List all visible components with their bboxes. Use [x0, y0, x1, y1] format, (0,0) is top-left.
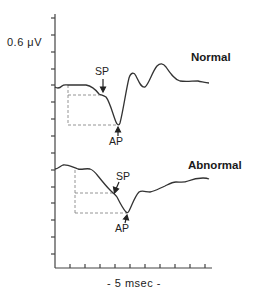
abnormal-sp-label: SP: [116, 171, 130, 182]
time-scale-label: - 5 msec -: [107, 278, 161, 289]
normal-waveform: [55, 64, 209, 125]
evoked-potential-figure: 0.6 μV Normal SP AP Abnormal SP AP - 5 m…: [0, 0, 256, 289]
abnormal-ap-label: AP: [115, 223, 129, 234]
abnormal-sp-arrow: [114, 182, 120, 193]
abnormal-waveform: [55, 165, 209, 213]
abnormal-trace-title: Abnormal: [188, 160, 242, 172]
y-axis: [51, 14, 55, 268]
normal-trace-title: Normal: [191, 52, 231, 64]
x-axis: [55, 264, 212, 268]
amplitude-scale-label: 0.6 μV: [7, 37, 42, 48]
normal-sp-arrow: [101, 79, 106, 92]
normal-ap-label: AP: [109, 136, 123, 147]
normal-sp-label: SP: [95, 66, 109, 77]
